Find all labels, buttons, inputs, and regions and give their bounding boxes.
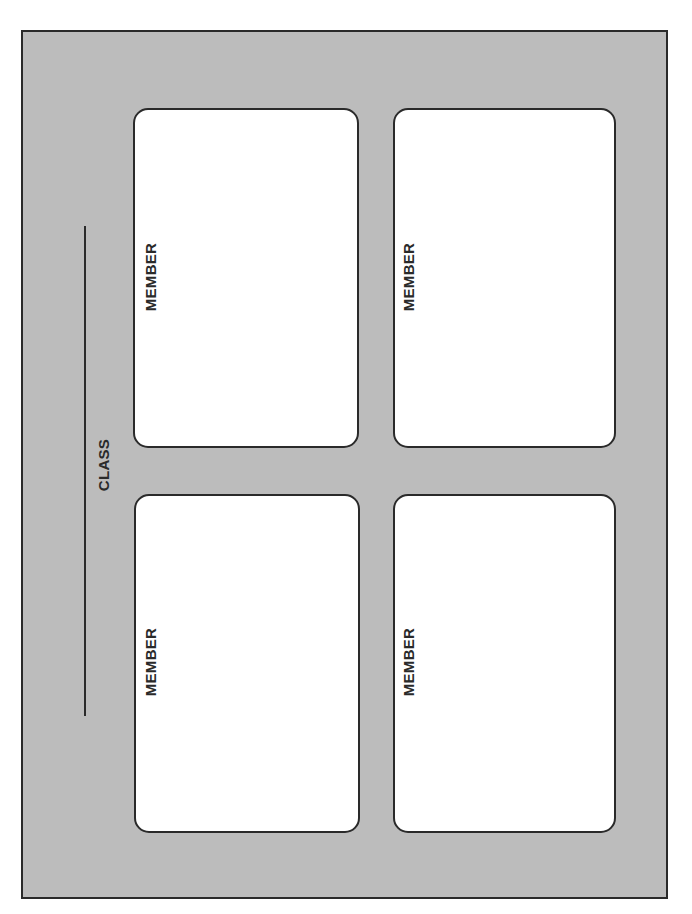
class-divider-line [84,226,86,716]
member-card-top-right [393,108,616,448]
member-label-top-right: MEMBER [400,243,417,311]
member-label-bottom-left: MEMBER [142,628,159,696]
member-label-top-left: MEMBER [142,243,159,311]
member-card-bottom-right [393,494,616,833]
class-label: CLASS [95,439,112,491]
member-card-top-left [133,108,359,448]
member-card-bottom-left [134,494,360,833]
member-label-bottom-right: MEMBER [400,628,417,696]
